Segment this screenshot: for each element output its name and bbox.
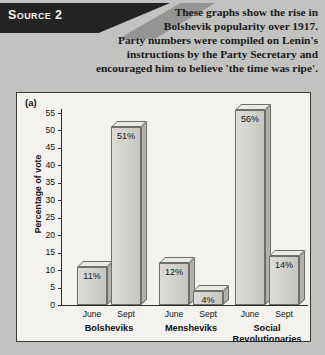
bar-front-face — [111, 127, 141, 305]
y-axis-tick-mark — [58, 183, 62, 184]
bar-bolsheviks-june: 11% — [77, 267, 107, 305]
intro-line: encouraged him to believe 'the time was … — [0, 62, 318, 76]
source-intro-text: These graphs show the rise inBolshevik p… — [0, 6, 318, 76]
x-axis-tick-label: Sept — [189, 309, 227, 319]
intro-line: Party numbers were compiled on Lenin's — [0, 34, 318, 48]
bar-bolsheviks-sept: 51% — [111, 127, 141, 305]
y-axis-tick-mark — [58, 200, 62, 201]
y-axis-tick-label: 25 — [29, 212, 55, 222]
y-axis-tick-label: 50 — [29, 125, 55, 135]
y-axis-tick-mark — [58, 253, 62, 254]
y-axis-tick-label: 30 — [29, 195, 55, 205]
y-axis-tick-mark — [58, 288, 62, 289]
intro-line: These graphs show the rise in — [0, 6, 318, 20]
x-axis-line — [61, 305, 308, 306]
bar-side-face — [141, 121, 147, 305]
y-axis-tick-label: 0 — [29, 300, 55, 310]
y-axis-tick-label: 15 — [29, 247, 55, 257]
y-axis-tick-label: 20 — [29, 230, 55, 240]
x-axis-tick-label: June — [73, 309, 111, 319]
intro-line: Bolshevik popularity over 1917. — [0, 20, 318, 34]
intro-line: instructions by the Party Secretary and — [0, 48, 318, 62]
y-axis-tick-mark — [58, 165, 62, 166]
y-axis-tick-mark — [58, 218, 62, 219]
chart-panel: (a) Percentage of vote 05101520253035404… — [16, 92, 311, 342]
y-axis-tick-label: 10 — [29, 265, 55, 275]
y-axis-line — [61, 109, 62, 306]
y-axis-tick-label: 45 — [29, 142, 55, 152]
bar-value-label: 51% — [111, 131, 141, 141]
y-axis-tick-mark — [58, 305, 62, 306]
bar-value-label: 14% — [269, 260, 299, 270]
bar-front-face — [235, 110, 265, 305]
group-label-line: Revolutionaries — [217, 334, 317, 345]
bar-value-label: 4% — [193, 295, 223, 305]
y-axis-tick-mark — [58, 130, 62, 131]
x-axis-tick-label: June — [155, 309, 193, 319]
source-header: Source 2 These graphs show the rise inBo… — [0, 0, 325, 88]
bar-social-revolutionaries-sept: 14% — [269, 256, 299, 305]
bar-value-label: 12% — [159, 267, 189, 277]
bar-value-label: 56% — [235, 114, 265, 124]
bar-chart-plot: Percentage of vote 051015202530354045505… — [17, 93, 312, 343]
y-axis-tick-mark — [58, 270, 62, 271]
bar-social-revolutionaries-june: 56% — [235, 110, 265, 305]
y-axis-tick-label: 40 — [29, 160, 55, 170]
bar-mensheviks-june: 12% — [159, 263, 189, 305]
bar-side-face — [299, 251, 305, 305]
group-label-social-revolutionaries: SocialRevolutionaries — [217, 323, 317, 344]
x-axis-tick-label: Sept — [107, 309, 145, 319]
y-axis-tick-label: 35 — [29, 177, 55, 187]
x-axis-tick-label: June — [231, 309, 269, 319]
source-figure: Source 2 These graphs show the rise inBo… — [0, 0, 325, 355]
group-label-line: Social — [217, 323, 317, 334]
y-axis-tick-label: 55 — [29, 108, 55, 118]
bar-value-label: 11% — [77, 271, 107, 281]
y-axis-tick-mark — [58, 235, 62, 236]
y-axis-tick-label: 5 — [29, 282, 55, 292]
x-axis-tick-label: Sept — [265, 309, 303, 319]
bar-mensheviks-sept: 4% — [193, 291, 223, 305]
y-axis-tick-mark — [58, 113, 62, 114]
y-axis-tick-mark — [58, 148, 62, 149]
